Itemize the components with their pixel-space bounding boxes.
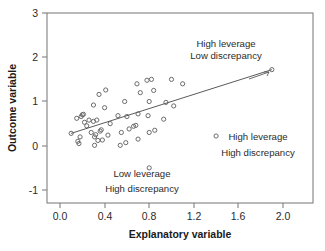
data-point: [214, 134, 218, 138]
y-tick-label: 1: [32, 95, 38, 107]
data-point: [136, 137, 140, 141]
data-point: [138, 91, 142, 95]
data-point: [89, 130, 93, 134]
data-point: [106, 133, 110, 137]
y-axis-tick-labels: 3 2 1 0 -1: [29, 7, 39, 196]
x-tick-label: 0.0: [53, 210, 68, 222]
data-point: [116, 114, 120, 118]
data-point: [91, 103, 95, 107]
annotation-line-2: Low discrepancy: [190, 50, 262, 61]
data-point: [78, 135, 82, 139]
data-point: [104, 88, 108, 92]
x-tick-label: 0.8: [142, 210, 157, 222]
data-point: [87, 118, 91, 122]
annotation-low-leverage-high-discrepancy: Low leverage High discrepancy: [105, 168, 179, 194]
data-point: [153, 128, 157, 132]
data-point: [127, 127, 131, 131]
x-tick-label: 2.0: [276, 210, 291, 222]
annotation-line-2: High discrepancy: [221, 147, 295, 158]
data-point: [96, 138, 100, 142]
data-point: [149, 77, 153, 81]
data-point: [119, 130, 123, 134]
data-point: [123, 99, 127, 103]
scatter-plot-figure: 3 2 1 0 -1 0.0 0.4 0.8 1.2 1.6 2.0 Expla…: [0, 0, 325, 251]
data-point: [103, 106, 107, 110]
data-point: [97, 92, 101, 96]
y-tick-label: 2: [32, 51, 38, 63]
data-point: [169, 77, 173, 81]
data-point: [145, 78, 149, 82]
x-tick-label: 1.6: [231, 210, 246, 222]
data-point: [147, 99, 151, 103]
annotation-line-1: High leverage: [196, 38, 255, 49]
plot-canvas: 3 2 1 0 -1 0.0 0.4 0.8 1.2 1.6 2.0 Expla…: [0, 0, 325, 251]
data-point: [152, 88, 156, 92]
y-axis-title: Outcome variable: [6, 64, 18, 152]
annotation-line-1: High leverage: [228, 131, 287, 142]
data-point: [92, 143, 96, 147]
data-point: [75, 116, 79, 120]
y-tick-label: 0: [32, 140, 38, 152]
data-point: [146, 114, 150, 118]
annotation-line-1: Low leverage: [113, 168, 170, 179]
data-point: [181, 82, 185, 86]
annotation-high-leverage-low-discrepancy: High leverage Low discrepancy: [190, 38, 262, 61]
x-axis-tick-labels: 0.0 0.4 0.8 1.2 1.6 2.0: [53, 210, 291, 222]
y-tick-label: 3: [32, 7, 38, 19]
y-tick-label: -1: [29, 184, 38, 196]
x-axis-title: Explanatory variable: [129, 228, 232, 240]
x-axis-ticks: [60, 203, 283, 208]
data-point: [172, 104, 176, 108]
x-tick-label: 0.4: [98, 210, 113, 222]
x-tick-label: 1.2: [187, 210, 202, 222]
regression-line: [71, 70, 272, 134]
data-point: [100, 138, 104, 142]
data-point: [147, 130, 151, 134]
annotation-line-2: High discrepancy: [105, 183, 179, 194]
data-point: [85, 124, 89, 128]
annotation-high-leverage-high-discrepancy: High leverage High discrepancy: [221, 131, 295, 158]
data-point: [162, 117, 166, 121]
y-axis-ticks: [42, 13, 47, 190]
data-point: [118, 143, 122, 147]
data-point: [135, 82, 139, 86]
data-point: [108, 122, 112, 126]
data-point: [124, 141, 128, 145]
plot-frame: [47, 13, 313, 203]
